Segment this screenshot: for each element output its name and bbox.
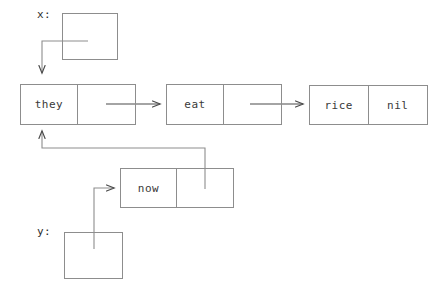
cons-cdr-now bbox=[177, 169, 233, 207]
cons-car-eat: eat bbox=[167, 85, 224, 124]
cons-cdr-label: nil bbox=[387, 100, 408, 111]
cons-car-they: they bbox=[21, 85, 78, 124]
cons-car-label: now bbox=[138, 183, 159, 194]
variable-label-x: x: bbox=[37, 9, 51, 20]
cons-car-label: they bbox=[35, 99, 64, 110]
diagram-canvas: x: y: they eat rice nil now bbox=[0, 0, 437, 294]
cons-cdr-rice: nil bbox=[369, 86, 428, 124]
cons-cell-they: they bbox=[20, 84, 136, 125]
cons-cdr-they bbox=[78, 85, 135, 124]
cons-cell-eat: eat bbox=[166, 84, 282, 125]
variable-box-x bbox=[62, 13, 118, 60]
variable-box-y bbox=[64, 232, 123, 279]
cons-cell-now: now bbox=[120, 168, 234, 208]
cons-car-label: rice bbox=[325, 100, 354, 111]
cons-car-rice: rice bbox=[310, 86, 369, 124]
cons-cdr-eat bbox=[224, 85, 281, 124]
cons-car-label: eat bbox=[184, 99, 205, 110]
variable-label-y: y: bbox=[37, 226, 51, 237]
cons-cell-rice: rice nil bbox=[309, 85, 428, 125]
cons-car-now: now bbox=[121, 169, 177, 207]
